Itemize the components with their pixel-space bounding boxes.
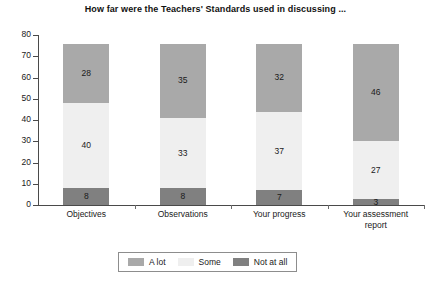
bar-segment-value: 27	[371, 166, 380, 175]
x-axis-tick	[424, 205, 425, 209]
bar-segment[interactable]: 32	[256, 44, 302, 112]
y-axis-tick-label-wrap: 30	[0, 136, 31, 146]
y-axis-tick-label-wrap: 80	[0, 30, 31, 40]
bar-segment-value: 40	[82, 141, 91, 150]
y-axis-tick-label: 70	[1, 51, 31, 60]
legend-label: A lot	[149, 258, 166, 267]
plot-area: 84028833357373232746	[38, 35, 424, 205]
bar-segment-value: 35	[178, 76, 187, 85]
bar-segment[interactable]: 7	[256, 190, 302, 205]
bar-segment[interactable]: 8	[63, 188, 109, 205]
y-axis-tick-label-wrap: 10	[0, 179, 31, 189]
bar-segment[interactable]: 40	[63, 103, 109, 188]
x-axis-label-line: Objectives	[38, 209, 135, 220]
y-axis-tick-label: 10	[1, 179, 31, 188]
bar-segment-value: 32	[275, 73, 284, 82]
x-axis-label-line: Your assessment	[328, 209, 425, 220]
y-axis-tick-label-wrap: 70	[0, 51, 31, 61]
legend-swatch	[128, 258, 144, 266]
x-axis-label-line: Observations	[135, 209, 232, 220]
y-axis-tick-label-wrap: 60	[0, 73, 31, 83]
bar-segment[interactable]: 27	[353, 141, 399, 198]
legend-item[interactable]: Not at all	[233, 258, 288, 267]
x-axis-label: Your assessmentreport	[328, 209, 425, 231]
bar-segment-value: 3	[373, 198, 378, 207]
bar-segment-value: 37	[275, 147, 284, 156]
bar-segment-value: 8	[180, 192, 185, 201]
stacked-bar[interactable]: 84028	[63, 44, 109, 206]
legend-label: Not at all	[254, 258, 288, 267]
bar-segment[interactable]: 33	[160, 118, 206, 188]
stacked-bar[interactable]: 32746	[353, 44, 399, 206]
bar-segment-value: 33	[178, 149, 187, 158]
x-axis-label: Objectives	[38, 209, 135, 220]
legend-label: Some	[199, 258, 221, 267]
y-axis-tick-label-wrap: 20	[0, 158, 31, 168]
bar-segment[interactable]: 8	[160, 188, 206, 205]
y-axis-tick	[33, 205, 38, 206]
y-axis-tick-label: 30	[1, 136, 31, 145]
y-axis-tick-label-wrap: 0	[0, 200, 31, 210]
bar-segment[interactable]: 28	[63, 44, 109, 104]
chart-title: How far were the Teachers' Standards use…	[0, 4, 431, 14]
x-axis-label-line: report	[328, 220, 425, 231]
x-axis-label: Your progress	[231, 209, 328, 220]
legend-swatch	[233, 258, 249, 266]
y-axis-tick-label: 60	[1, 73, 31, 82]
y-axis-tick-label: 50	[1, 94, 31, 103]
y-axis-tick-label-wrap: 40	[0, 115, 31, 125]
stacked-bar-chart: How far were the Teachers' Standards use…	[0, 0, 431, 283]
x-axis-label-line: Your progress	[231, 209, 328, 220]
stacked-bar[interactable]: 83335	[160, 44, 206, 206]
y-axis-tick-label: 40	[1, 115, 31, 124]
bar-segment-value: 7	[277, 193, 282, 202]
bar-segment-value: 46	[371, 88, 380, 97]
x-axis-label: Observations	[135, 209, 232, 220]
bar-segment[interactable]: 35	[160, 44, 206, 118]
legend-item[interactable]: Some	[178, 258, 221, 267]
y-axis-tick-label-wrap: 50	[0, 94, 31, 104]
y-axis-tick-label: 80	[1, 30, 31, 39]
y-axis-tick-label: 20	[1, 158, 31, 167]
bar-segment-value: 8	[84, 192, 89, 201]
legend-swatch	[178, 258, 194, 266]
chart-legend: A lotSomeNot at all	[118, 252, 297, 272]
bar-segment-value: 28	[82, 69, 91, 78]
bar-segment[interactable]: 46	[353, 44, 399, 142]
y-axis-tick-label: 0	[1, 200, 31, 209]
legend-item[interactable]: A lot	[128, 258, 166, 267]
bar-segment[interactable]: 37	[256, 112, 302, 191]
stacked-bar[interactable]: 73732	[256, 44, 302, 206]
bar-segment[interactable]: 3	[353, 199, 399, 205]
